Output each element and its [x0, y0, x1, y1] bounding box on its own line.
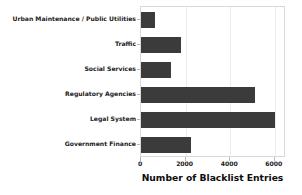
bar[interactable]: [141, 87, 255, 103]
plot-area: [140, 6, 285, 157]
y-axis-tick-mark: [137, 94, 141, 95]
bar[interactable]: [141, 12, 155, 28]
bar-track: [141, 62, 286, 78]
bar-track: [141, 112, 286, 128]
bar-track: [141, 87, 286, 103]
gridline-vertical: [186, 7, 187, 156]
bar[interactable]: [141, 62, 171, 78]
y-axis-category-label: Government Finance: [0, 141, 136, 147]
y-axis-category-label: Traffic: [0, 41, 136, 47]
x-axis-tick-label: 4000: [221, 161, 238, 167]
bar[interactable]: [141, 112, 275, 128]
y-axis-tick-mark: [137, 119, 141, 120]
bar[interactable]: [141, 137, 191, 153]
bar-chart-figure: Urban Maintenance / Public UtilitiesTraf…: [0, 0, 302, 195]
y-axis-tick-mark: [137, 69, 141, 70]
x-axis-tick-label: 0: [138, 161, 142, 167]
y-axis-category-label: Social Services: [0, 66, 136, 72]
y-axis-tick-mark: [137, 44, 141, 45]
y-axis-category-label: Urban Maintenance / Public Utilities: [0, 16, 136, 22]
gridline-vertical: [275, 7, 276, 156]
gridline-vertical: [230, 7, 231, 156]
y-axis-tick-mark: [137, 144, 141, 145]
x-axis-tick-label: 6000: [265, 161, 282, 167]
x-axis-title: Number of Blacklist Entries: [140, 173, 285, 182]
y-axis-category-label: Regulatory Agencies: [0, 91, 136, 97]
y-axis-category-label: Legal System: [0, 116, 136, 122]
y-axis-tick-mark: [137, 19, 141, 20]
bar[interactable]: [141, 37, 181, 53]
bar-track: [141, 12, 286, 28]
bar-track: [141, 37, 286, 53]
bar-track: [141, 137, 286, 153]
x-axis-tick-label: 2000: [176, 161, 193, 167]
